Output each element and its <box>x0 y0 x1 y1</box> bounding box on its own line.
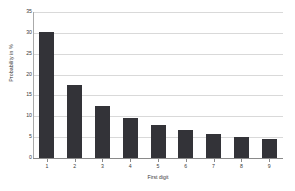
y-axis-tick-label: 35 <box>18 9 32 14</box>
y-axis-title: Probability in % <box>8 18 14 108</box>
x-axis-tick-label: 6 <box>178 163 194 169</box>
x-axis-tick <box>214 159 215 162</box>
y-axis-tick-label: 10 <box>18 114 32 119</box>
bar <box>234 137 249 158</box>
y-axis-tick-label: 20 <box>18 72 32 77</box>
x-axis-tick-label: 7 <box>206 163 222 169</box>
x-axis-tick-label: 1 <box>39 163 55 169</box>
x-axis-tick-label: 8 <box>233 163 249 169</box>
x-axis-tick <box>186 159 187 162</box>
x-axis-tick-label: 5 <box>150 163 166 169</box>
x-axis-tick-label: 4 <box>122 163 138 169</box>
x-axis-tick <box>47 159 48 162</box>
y-axis-tick-label: 30 <box>18 30 32 35</box>
bar <box>206 134 221 158</box>
plot-area <box>33 12 283 158</box>
y-axis-tick-label: 15 <box>18 93 32 98</box>
y-axis-tick-label: 0 <box>18 155 32 160</box>
y-axis-tick-label: 5 <box>18 135 32 140</box>
x-axis-tick-label: 3 <box>94 163 110 169</box>
bars-series <box>33 12 283 158</box>
x-axis-tick <box>269 159 270 162</box>
bar <box>262 139 277 158</box>
bar <box>178 130 193 158</box>
x-axis-tick <box>75 159 76 162</box>
x-axis-tick-label: 2 <box>67 163 83 169</box>
x-axis-tick <box>102 159 103 162</box>
x-axis-tick <box>130 159 131 162</box>
bar <box>123 118 138 158</box>
bar <box>67 85 82 158</box>
x-axis-tick-label: 9 <box>261 163 277 169</box>
y-axis-line <box>33 12 34 159</box>
x-axis-tick <box>241 159 242 162</box>
bar <box>39 32 54 158</box>
y-axis-tick-labels: 05101520253035 <box>18 12 32 158</box>
x-axis-tick <box>158 159 159 162</box>
bar <box>95 106 110 158</box>
benford-law-bar-chart: Probability in % 05101520253035 12345678… <box>0 0 295 191</box>
bar <box>151 125 166 158</box>
x-axis-title: First digit <box>33 174 283 180</box>
y-axis-tick-label: 25 <box>18 51 32 56</box>
